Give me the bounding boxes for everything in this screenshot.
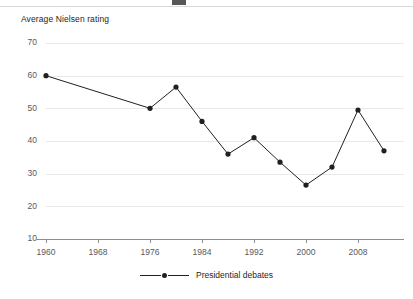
data-point-2004 (329, 165, 334, 170)
data-point-2012 (381, 148, 386, 153)
data-point-1984 (199, 119, 204, 124)
legend-line-left (140, 275, 161, 276)
data-point-1992 (251, 135, 256, 140)
chart-legend: Presidential debates (0, 270, 413, 280)
chart-figure: Average Nielsen rating 70 60 50 40 30 20… (0, 0, 413, 299)
legend-label-presidential-debates: Presidential debates (196, 270, 273, 280)
series-presidential-debates (0, 0, 413, 299)
series-markers (43, 73, 386, 188)
data-point-2000 (303, 183, 308, 188)
data-point-1976 (147, 106, 152, 111)
legend-line-right (168, 275, 189, 276)
data-point-1996 (277, 160, 282, 165)
data-point-1960 (43, 73, 48, 78)
data-point-1980 (173, 85, 178, 90)
data-point-2008 (355, 107, 360, 112)
data-point-1988 (225, 152, 230, 157)
legend-marker-icon (162, 273, 167, 278)
